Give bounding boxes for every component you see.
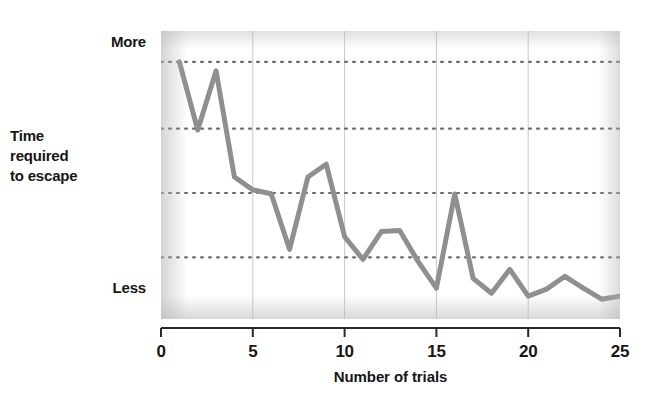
x-tick-label-25: 25 bbox=[600, 342, 640, 362]
chart-figure: More Time required to escape Less 051015… bbox=[0, 0, 667, 409]
data-series-group bbox=[179, 62, 620, 299]
x-tick-label-20: 20 bbox=[508, 342, 548, 362]
chart-plot-svg bbox=[161, 31, 620, 319]
x-tick-label-15: 15 bbox=[416, 342, 456, 362]
y-axis-top-label: More bbox=[24, 32, 146, 52]
x-tick-label-0: 0 bbox=[141, 342, 181, 362]
vertical-gridlines bbox=[253, 31, 528, 319]
x-tick-label-10: 10 bbox=[325, 342, 365, 362]
x-tick-label-5: 5 bbox=[233, 342, 273, 362]
y-axis-title: Time required to escape bbox=[10, 126, 146, 186]
x-axis-line bbox=[150, 318, 640, 340]
x-axis-title: Number of trials bbox=[161, 368, 620, 385]
plot-area bbox=[161, 31, 620, 319]
y-axis-bottom-label: Less bbox=[24, 278, 146, 298]
